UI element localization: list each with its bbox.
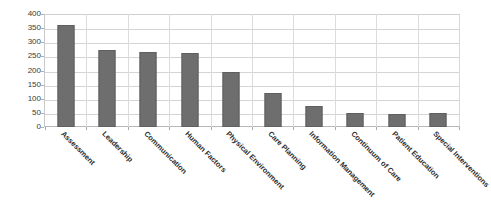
x-tick-label: Special Interventions: [432, 130, 491, 189]
bar[interactable]: [306, 106, 323, 127]
x-tick-label: Leadership: [100, 130, 134, 164]
bar-slot: [211, 14, 252, 127]
bar-slot: [418, 14, 459, 127]
bar-slot: [128, 14, 169, 127]
bar-slot: [376, 14, 417, 127]
bar[interactable]: [99, 50, 116, 127]
bar-slot: [169, 14, 210, 127]
x-tick-mark: [252, 127, 253, 130]
x-tick-label: Care Planning: [266, 130, 307, 171]
bar[interactable]: [264, 93, 281, 127]
x-tick-mark: [86, 127, 87, 130]
bar-slot: [45, 14, 86, 127]
y-axis-tick-marks: [0, 14, 44, 127]
bar[interactable]: [430, 113, 447, 127]
x-tick-mark: [169, 127, 170, 130]
x-tick-mark: [293, 127, 294, 130]
bar-slot: [335, 14, 376, 127]
x-tick-mark: [418, 127, 419, 130]
x-tick-label: Communication: [142, 130, 188, 176]
bar-slot: [293, 14, 334, 127]
bar-slot: [252, 14, 293, 127]
x-tick-mark: [459, 127, 460, 130]
bar[interactable]: [57, 25, 74, 127]
y-tick-mark: [41, 127, 44, 128]
bar[interactable]: [181, 53, 198, 127]
bar[interactable]: [388, 114, 405, 127]
x-axis-labels: AssessmentLeadershipCommunicationHuman F…: [45, 130, 459, 211]
x-tick-mark: [376, 127, 377, 130]
bar[interactable]: [347, 113, 364, 127]
x-tick-mark: [335, 127, 336, 130]
bar-slot: [86, 14, 127, 127]
x-tick-label: Assessment: [59, 130, 96, 167]
x-tick-mark: [211, 127, 212, 130]
x-tick-mark: [128, 127, 129, 130]
bars-layer: [45, 14, 459, 127]
bar[interactable]: [223, 72, 240, 127]
bar[interactable]: [140, 52, 157, 127]
x-tick-mark: [45, 127, 46, 130]
x-tick-label: Human Factors: [183, 130, 227, 174]
